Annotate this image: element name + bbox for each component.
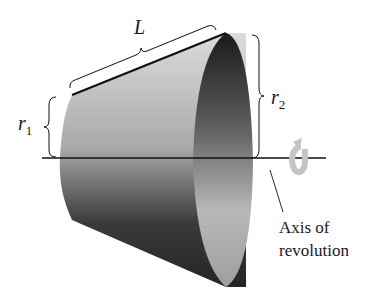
axis-pointer-line (270, 170, 283, 212)
axis-label-line1: Axis of (279, 216, 349, 239)
label-r1-var: r (18, 112, 26, 134)
radius2-brace (252, 35, 264, 158)
label-r1: r1 (18, 112, 32, 135)
label-r1-sub: 1 (26, 123, 33, 138)
radius1-brace (44, 97, 56, 157)
axis-of-revolution-label: Axis of revolution (279, 216, 349, 262)
frustum-diagram: L r1 r2 Axis of revolution (0, 0, 389, 300)
rotation-arrow-icon (292, 138, 305, 172)
label-r2-var: r (271, 86, 279, 108)
label-r2: r2 (271, 86, 285, 109)
label-L: L (134, 16, 145, 39)
label-r2-sub: 2 (279, 97, 286, 112)
axis-label-line2: revolution (279, 239, 349, 262)
